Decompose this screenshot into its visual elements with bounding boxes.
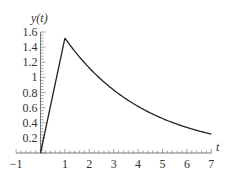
x-tick-label: 4 [135,157,141,171]
x-tick-label: 6 [184,157,190,171]
x-tick-label: 2 [86,157,92,171]
series-line [41,38,212,153]
y-axis-label: y(t) [30,11,48,25]
x-tick-label: −1 [10,157,23,171]
y-tick-label: 1.4 [23,40,38,54]
y-tick-label: 0.4 [23,116,38,130]
chart: −112345670.20.40.60.811.21.41.6 y(t) t [0,0,229,175]
x-tick-label: 3 [111,157,117,171]
y-tick-label: 1.2 [23,55,38,69]
x-tick-label: 7 [208,157,214,171]
y-tick-label: 0.8 [23,86,38,100]
ticks [16,32,211,153]
y-tick-label: 1.6 [23,25,38,39]
y-tick-label: 0.2 [23,131,38,145]
x-axis-label: t [216,140,220,154]
y-tick-label: 1 [32,70,38,84]
x-tick-label: 1 [62,157,68,171]
y-tick-label: 0.6 [23,101,38,115]
x-tick-label: 5 [160,157,166,171]
